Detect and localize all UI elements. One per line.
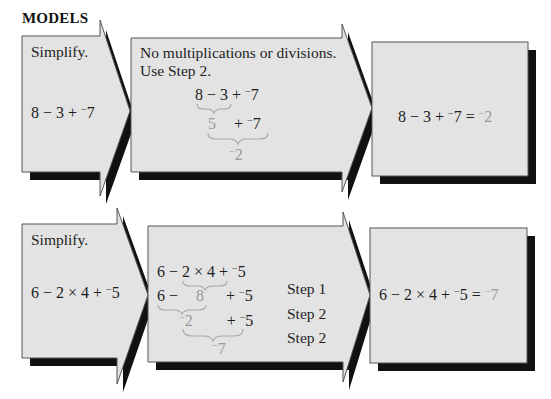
final-result: 2 xyxy=(235,146,243,163)
work-line-1: 8 − 3 + −7 xyxy=(195,86,259,104)
work-note-line2: Use Step 2. xyxy=(140,62,211,80)
operator: + xyxy=(219,263,228,280)
operator: × xyxy=(194,263,203,280)
number: 2 xyxy=(182,263,190,280)
work-line-2: 5 + −7 xyxy=(208,115,261,133)
operator: + xyxy=(227,312,236,329)
operator: + xyxy=(68,104,77,121)
problem-label: Simplify. xyxy=(31,231,88,249)
number: 7 xyxy=(454,108,462,125)
operator: + xyxy=(226,287,235,304)
problem-label: Simplify. xyxy=(31,43,88,61)
intermediate-result: 2 xyxy=(185,312,193,329)
operator: + xyxy=(93,284,102,301)
number: 6 xyxy=(157,263,165,280)
operator: − xyxy=(43,104,52,121)
work-line-2: 6 − 8 + −5 xyxy=(157,287,253,305)
operator: − xyxy=(169,263,178,280)
operator: × xyxy=(68,284,77,301)
answer-equation: 6 − 2 × 4 + −5 = −7 xyxy=(379,286,498,304)
work-line-1: 6 − 2 × 4 + −5 xyxy=(157,263,246,281)
work-line-4: −7 xyxy=(212,340,226,358)
answer-result: 2 xyxy=(484,108,492,125)
work-line-3: −2 + −5 xyxy=(179,312,253,330)
step-label: Step 2 xyxy=(287,329,326,347)
step-label: Step 2 xyxy=(287,305,326,323)
answer-result: 7 xyxy=(490,286,498,303)
number: 5 xyxy=(245,312,253,329)
problem-expression: 8 − 3 + −7 xyxy=(31,104,95,122)
number: 7 xyxy=(253,115,261,132)
number: 4 xyxy=(81,284,89,301)
intermediate-result: 5 xyxy=(208,115,216,132)
operator: + xyxy=(234,115,243,132)
number: 8 xyxy=(31,104,39,121)
number: 5 xyxy=(460,286,468,303)
operator: + xyxy=(232,86,241,103)
number: 5 xyxy=(238,263,246,280)
step-label: Step 1 xyxy=(287,280,326,298)
answer-equation: 8 − 3 + −7 = −2 xyxy=(398,108,492,126)
number: 5 xyxy=(112,284,120,301)
equals-sign: = xyxy=(466,108,475,125)
work-line-3: −2 xyxy=(229,146,243,164)
equals-sign: = xyxy=(472,286,481,303)
number: 6 xyxy=(31,284,39,301)
number: 2 xyxy=(56,284,64,301)
number: 6 xyxy=(157,287,165,304)
operator: − xyxy=(207,86,216,103)
number: 7 xyxy=(251,86,259,103)
number: 7 xyxy=(87,104,95,121)
number: 5 xyxy=(245,287,253,304)
expression: 8 − 3 + xyxy=(398,108,444,125)
operator: − xyxy=(43,284,52,301)
work-note-line1: No multiplications or divisions. xyxy=(140,44,336,62)
section-heading: MODELS xyxy=(22,10,88,27)
number: 4 xyxy=(207,263,215,280)
problem-expression: 6 − 2 × 4 + −5 xyxy=(31,284,120,302)
number: 8 xyxy=(195,86,203,103)
number: 3 xyxy=(56,104,64,121)
final-result: 7 xyxy=(218,340,226,357)
intermediate-result: 8 xyxy=(196,287,204,304)
expression: 6 − 2 × 4 + xyxy=(379,286,450,303)
number: 3 xyxy=(220,86,228,103)
operator: − xyxy=(169,287,178,304)
